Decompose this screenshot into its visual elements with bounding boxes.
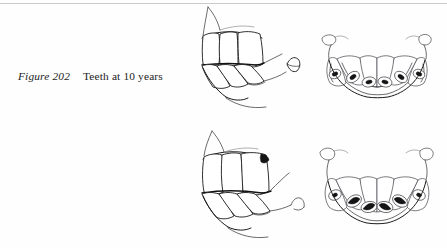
figure-row-203: Figure 203Teeth at 13 years — [0, 124, 447, 248]
figure-title-label: Teeth at 10 years — [83, 70, 163, 82]
teeth-arch-view-10-years — [312, 2, 442, 122]
teeth-lateral-view-13-years — [190, 126, 318, 246]
figure-page: Figure 202Teeth at 10 years — [0, 0, 447, 248]
teeth-lateral-view-10-years — [190, 2, 318, 122]
teeth-arch-view-13-years — [312, 126, 442, 246]
figure-caption-202: Figure 202Teeth at 10 years — [18, 70, 198, 82]
figure-row-202: Figure 202Teeth at 10 years — [0, 0, 447, 124]
figure-number-label: Figure 202 — [18, 70, 70, 82]
